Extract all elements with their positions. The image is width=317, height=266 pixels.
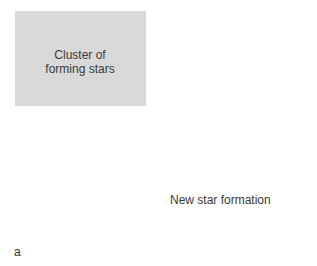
cluster-label-line1: Cluster of	[40, 48, 120, 62]
cluster-label: Cluster of forming stars	[40, 48, 120, 76]
panel-letter: a	[14, 245, 21, 259]
new-star-formation-label: New star formation	[170, 193, 271, 207]
star-formation-diagram	[0, 0, 317, 266]
cluster-label-line2: forming stars	[40, 62, 120, 76]
